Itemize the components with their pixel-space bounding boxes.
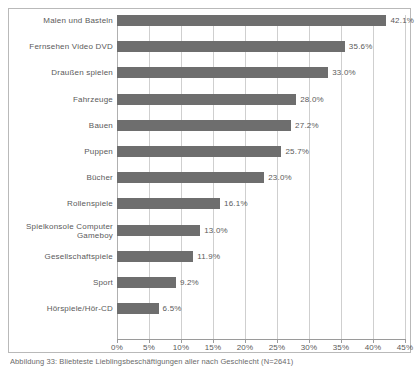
x-tick-label-45: 45% xyxy=(388,343,419,353)
bar xyxy=(117,225,200,236)
bar-row: Spielkonsole Computer Gameboy13.0% xyxy=(9,225,410,251)
category-label: Fernsehen Video DVD xyxy=(9,42,113,52)
x-tick-label-35: 35% xyxy=(324,343,358,353)
chart-frame: 0%5%10%15%20%25%30%35%40%45%Malen und Ba… xyxy=(8,8,411,353)
bar xyxy=(117,146,281,157)
bar-value-label: 33.0% xyxy=(332,67,356,78)
x-tick-label-5: 5% xyxy=(132,343,166,353)
bar-value-label: 9.2% xyxy=(180,277,199,288)
bar xyxy=(117,120,291,131)
bar-row: Puppen25.7% xyxy=(9,146,410,172)
bar-row: Fernsehen Video DVD35.6% xyxy=(9,41,410,67)
x-tick-label-40: 40% xyxy=(356,343,390,353)
bar-row: Malen und Basteln42.1% xyxy=(9,15,410,41)
bar-row: Fahrzeuge28.0% xyxy=(9,94,410,120)
category-label: Fahrzeuge xyxy=(9,95,113,105)
bar xyxy=(117,198,220,209)
bar-row: Bücher23.0% xyxy=(9,172,410,198)
bar-row: Bauen27.2% xyxy=(9,120,410,146)
x-tick-label-20: 20% xyxy=(228,343,262,353)
bar xyxy=(117,15,386,26)
bar-row: Sport9.2% xyxy=(9,277,410,303)
bar-row: Hörspiele/Hör-CD6.5% xyxy=(9,303,410,329)
bar-value-label: 6.5% xyxy=(163,303,182,314)
figure: 0%5%10%15%20%25%30%35%40%45%Malen und Ba… xyxy=(0,0,419,370)
bar-value-label: 35.6% xyxy=(349,41,373,52)
bar xyxy=(117,303,159,314)
bar xyxy=(117,94,296,105)
bar xyxy=(117,67,328,78)
bar-row: Draußen spielen33.0% xyxy=(9,67,410,93)
category-label: Bauen xyxy=(9,121,113,131)
category-label: Puppen xyxy=(9,147,113,157)
category-label: Malen und Basteln xyxy=(9,16,113,26)
bar-value-label: 23.0% xyxy=(268,172,292,183)
figure-caption: Abbildung 33: Bliebteste Lieblingsbeschä… xyxy=(10,357,410,366)
bar-value-label: 28.0% xyxy=(300,94,324,105)
bar-row: Gesellschaftspiele11.9% xyxy=(9,251,410,277)
bar xyxy=(117,41,345,52)
bar-value-label: 16.1% xyxy=(224,198,248,209)
x-tick-label-25: 25% xyxy=(260,343,294,353)
x-tick-label-0: 0% xyxy=(100,343,134,353)
x-tick-label-15: 15% xyxy=(196,343,230,353)
x-axis-line xyxy=(117,339,405,340)
category-label: Rollenspiele xyxy=(9,199,113,209)
bar-value-label: 42.1% xyxy=(390,15,414,26)
bar-value-label: 25.7% xyxy=(285,146,309,157)
bar-value-label: 11.9% xyxy=(197,251,220,262)
bar xyxy=(117,172,264,183)
category-label: Bücher xyxy=(9,173,113,183)
bar xyxy=(117,277,176,288)
category-label: Hörspiele/Hör-CD xyxy=(9,304,113,314)
bar-value-label: 27.2% xyxy=(295,120,319,131)
category-label: Spielkonsole Computer Gameboy xyxy=(9,222,113,241)
bar-value-label: 13.0% xyxy=(204,225,228,236)
category-label: Gesellschaftspiele xyxy=(9,252,113,262)
category-label: Draußen spielen xyxy=(9,68,113,78)
bar xyxy=(117,251,193,262)
x-tick-label-30: 30% xyxy=(292,343,326,353)
bar-row: Rollenspiele16.1% xyxy=(9,198,410,224)
category-label: Sport xyxy=(9,278,113,288)
x-tick-label-10: 10% xyxy=(164,343,198,353)
